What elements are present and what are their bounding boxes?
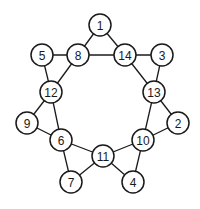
node-label: 14 xyxy=(118,49,132,63)
node-1: 1 xyxy=(89,14,111,36)
node-label: 1 xyxy=(97,19,104,33)
node-label: 8 xyxy=(75,49,82,63)
node-13: 13 xyxy=(143,81,165,103)
node-label: 6 xyxy=(58,134,65,148)
node-label: 3 xyxy=(159,49,166,63)
node-6: 6 xyxy=(50,129,72,151)
node-7: 7 xyxy=(60,171,82,193)
node-14: 14 xyxy=(114,44,136,66)
node-4: 4 xyxy=(122,171,144,193)
node-label: 2 xyxy=(175,117,182,131)
node-5: 5 xyxy=(31,44,53,66)
node-2: 2 xyxy=(167,112,189,134)
node-label: 12 xyxy=(44,86,58,100)
node-12: 12 xyxy=(40,81,62,103)
node-11: 11 xyxy=(92,145,114,167)
node-label: 10 xyxy=(136,134,150,148)
node-8: 8 xyxy=(67,44,89,66)
node-label: 4 xyxy=(130,176,137,190)
node-label: 5 xyxy=(39,49,46,63)
node-label: 9 xyxy=(24,117,31,131)
node-label: 7 xyxy=(68,176,75,190)
node-9: 9 xyxy=(16,112,38,134)
graph-diagram: 1581431213926101174 xyxy=(0,0,200,209)
node-label: 13 xyxy=(147,86,161,100)
node-3: 3 xyxy=(151,44,173,66)
node-10: 10 xyxy=(132,129,154,151)
node-label: 11 xyxy=(97,150,110,164)
